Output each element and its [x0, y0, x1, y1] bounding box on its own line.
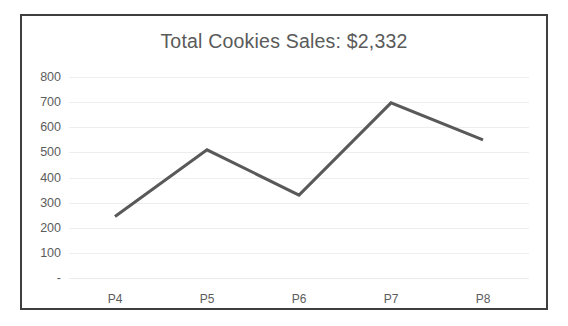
y-axis-tick-label: 400	[40, 171, 61, 185]
line-series-cookies-sales	[69, 77, 529, 278]
y-axis-tick-label: 700	[40, 95, 61, 109]
x-axis-tick-label: P4	[108, 292, 123, 306]
y-axis-tick-label: 300	[40, 196, 61, 210]
x-axis-tick-label: P5	[200, 292, 215, 306]
series-polyline	[115, 103, 483, 217]
x-axis-tick-label: P7	[384, 292, 399, 306]
plot-area: 800700600500400300200100- P4P5P6P7P8	[69, 77, 529, 278]
y-axis-tick-label: -	[57, 271, 61, 285]
y-axis-tick-label: 200	[40, 221, 61, 235]
y-axis-tick-label: 600	[40, 120, 61, 134]
x-axis-tick-label: P8	[476, 292, 491, 306]
chart-title: Total Cookies Sales: $2,332	[22, 30, 546, 53]
x-axis-tick-label: P6	[292, 292, 307, 306]
y-axis-tick-label: 500	[40, 145, 61, 159]
gridline	[69, 278, 529, 279]
chart-frame: Total Cookies Sales: $2,332 800700600500…	[20, 14, 548, 310]
y-axis-tick-label: 800	[40, 70, 61, 84]
y-axis-tick-label: 100	[40, 246, 61, 260]
